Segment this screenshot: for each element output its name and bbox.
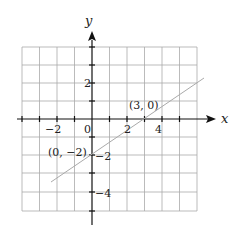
- y-tick-label: −4: [95, 187, 111, 200]
- x-axis: [17, 116, 208, 122]
- y-axis-arrow-icon: [88, 31, 96, 41]
- x-tick-label: 2: [124, 123, 131, 136]
- y-tick-label: −2: [95, 150, 111, 163]
- coordinate-plane: x y −2 0 2 4 2 −2 −4 (3, 0) (0, −2): [0, 0, 238, 239]
- point-label-0-neg2: (0, −2): [48, 146, 87, 159]
- point-label-3-0: (3, 0): [129, 99, 159, 112]
- x-axis-label: x: [221, 111, 229, 126]
- x-tick-label: 4: [155, 123, 162, 136]
- y-tick-label: 2: [84, 77, 91, 90]
- y-axis-label: y: [84, 13, 93, 28]
- x-tick-label: −2: [45, 123, 61, 136]
- x-tick-label: 0: [84, 123, 91, 136]
